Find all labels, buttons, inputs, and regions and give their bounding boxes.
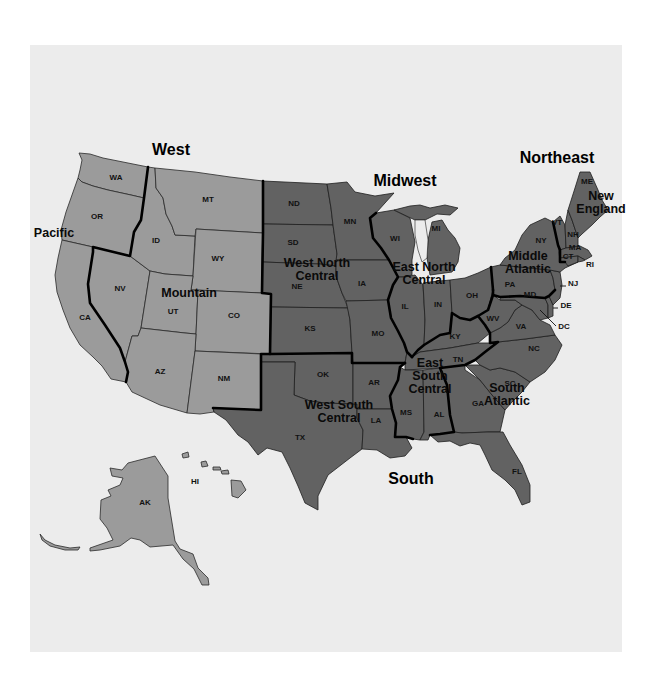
state-ut — [141, 271, 198, 334]
state-label-ct: CT — [563, 252, 574, 261]
state-label-ga: GA — [472, 399, 484, 408]
state-label-ak: AK — [139, 498, 151, 507]
state-ak — [90, 456, 209, 585]
state-label-ne: NE — [291, 282, 303, 291]
us-census-regions-map: WAORCAAKHIMTIDWYNVUTCOAZNMNDMNSDNEIAKSMO… — [0, 0, 658, 687]
state-label-nm: NM — [218, 374, 231, 383]
state-label-nj: NJ — [568, 279, 578, 288]
east-region-shapes — [213, 172, 608, 510]
state-label-tx: TX — [295, 433, 306, 442]
state-label-il: IL — [401, 302, 408, 311]
state-label-nd: ND — [288, 199, 300, 208]
state-label-sd: SD — [287, 238, 298, 247]
division-label-south-atlantic: SouthAtlantic — [484, 381, 530, 408]
state-label-ar: AR — [368, 378, 380, 387]
state-label-ms: MS — [400, 408, 413, 417]
region-label-south: South — [388, 470, 433, 487]
state-label-nc: NC — [528, 344, 540, 353]
region-label-west: West — [152, 141, 191, 158]
state-label-or: OR — [91, 212, 103, 221]
state-label-ca: CA — [79, 313, 91, 322]
state-label-fl: FL — [512, 467, 522, 476]
state-label-md: MD — [524, 290, 537, 299]
state-label-ny: NY — [535, 236, 547, 245]
state-label-ia: IA — [358, 279, 366, 288]
state-label-ks: KS — [304, 324, 316, 333]
state-label-wa: WA — [110, 173, 123, 182]
division-label-middle-atlantic: MiddleAtlantic — [505, 249, 551, 276]
state-label-mi: MI — [432, 224, 441, 233]
state-hi-island-2 — [201, 461, 208, 467]
state-label-pa: PA — [505, 280, 516, 289]
state-label-ma: MA — [569, 243, 582, 252]
state-label-mo: MO — [372, 329, 385, 338]
state-label-mt: MT — [202, 195, 214, 204]
state-label-in: IN — [434, 300, 442, 309]
region-label-northeast: Northeast — [520, 149, 595, 166]
state-label-vt: VT — [552, 218, 562, 227]
state-label-mn: MN — [344, 217, 357, 226]
state-label-tn: TN — [453, 355, 464, 364]
state-hi-big-island — [231, 480, 246, 498]
state-label-id: ID — [152, 236, 160, 245]
state-hi-island-4 — [221, 470, 229, 474]
state-label-wy: WY — [212, 254, 226, 263]
lake-michigan — [415, 220, 428, 262]
state-label-hi: HI — [191, 477, 199, 486]
state-hi-island-3 — [213, 467, 221, 470]
state-wy — [191, 229, 263, 293]
state-label-de: DE — [560, 301, 572, 310]
state-label-nv: NV — [114, 284, 126, 293]
state-label-va: VA — [516, 322, 527, 331]
state-label-nh: NH — [567, 230, 579, 239]
state-label-ut: UT — [168, 307, 179, 316]
state-hi-island-1 — [182, 452, 189, 458]
division-label-pacific: Pacific — [34, 226, 74, 240]
state-label-ri: RI — [586, 260, 594, 269]
state-label-oh: OH — [466, 291, 478, 300]
state-label-az: AZ — [155, 367, 166, 376]
state-ak-aleutians — [40, 534, 80, 550]
division-label-mountain: Mountain — [161, 286, 217, 300]
state-label-wi: WI — [390, 234, 400, 243]
state-label-la: LA — [371, 416, 382, 425]
state-label-me: ME — [581, 177, 594, 186]
state-label-dc: DC — [558, 322, 570, 331]
state-label-ok: OK — [317, 370, 329, 379]
state-label-co: CO — [228, 311, 240, 320]
state-label-wv: WV — [487, 314, 501, 323]
state-label-al: AL — [434, 410, 445, 419]
state-label-ky: KY — [449, 332, 461, 341]
region-label-midwest: Midwest — [373, 172, 437, 189]
